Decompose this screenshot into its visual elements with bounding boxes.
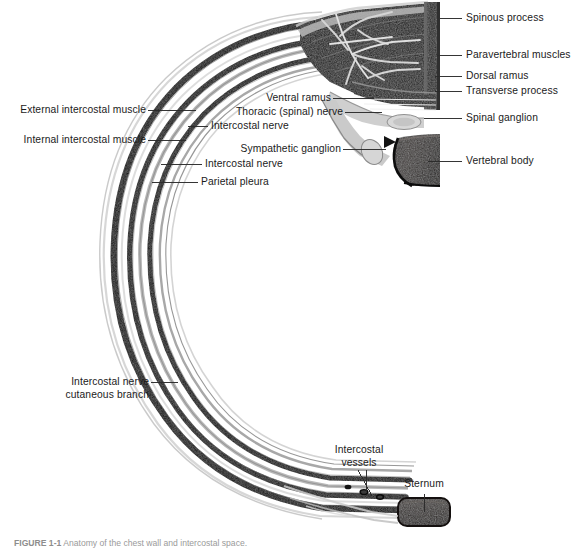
- label-intercostal-vessels-line1: Intercostal: [328, 444, 390, 456]
- label-dorsal-ramus: Dorsal ramus: [466, 70, 528, 82]
- label-thoracic-spinal-nerve: Thoracic (spinal) nerve: [180, 106, 343, 118]
- label-ventral-ramus: Ventral ramus: [180, 92, 331, 104]
- label-intercostal-nerve-lower: Intercostal nerve: [205, 158, 283, 170]
- figure-caption: FIGURE 1-1 Anatomy of the chest wall and…: [14, 538, 570, 548]
- label-intercostal-nerve-cutaneous-branch-line2: cutaneous branch: [0, 389, 149, 401]
- label-intercostal-nerve-cutaneous-branch-line1: Intercostal nerve: [0, 376, 149, 388]
- label-sympathetic-ganglion: Sympathetic ganglion: [200, 143, 341, 155]
- label-external-intercostal-muscle: External intercostal muscle: [0, 104, 146, 116]
- label-spinous-process: Spinous process: [466, 12, 544, 24]
- label-transverse-process: Transverse process: [466, 85, 558, 97]
- label-parietal-pleura: Parietal pleura: [201, 176, 269, 188]
- label-paravertebral-muscles: Paravertebral muscles: [466, 49, 571, 61]
- label-intercostal-vessels-line2: vessels: [328, 457, 390, 469]
- label-vertebral-body: Vertebral body: [466, 155, 534, 167]
- figure-caption-prefix: FIGURE 1-1: [14, 538, 61, 548]
- anatomy-figure: Spinous process Paravertebral muscles Do…: [0, 0, 584, 548]
- label-spinal-ganglion: Spinal ganglion: [466, 112, 538, 124]
- vertebral-body-block: [393, 134, 440, 186]
- label-intercostal-nerve-upper: Intercostal nerve: [211, 120, 289, 132]
- vertebra-block: [424, 2, 440, 110]
- label-internal-intercostal-muscle: Internal intercostal muscle: [0, 134, 146, 146]
- figure-caption-text: Anatomy of the chest wall and intercosta…: [63, 538, 247, 548]
- label-sternum: Sternum: [394, 478, 454, 490]
